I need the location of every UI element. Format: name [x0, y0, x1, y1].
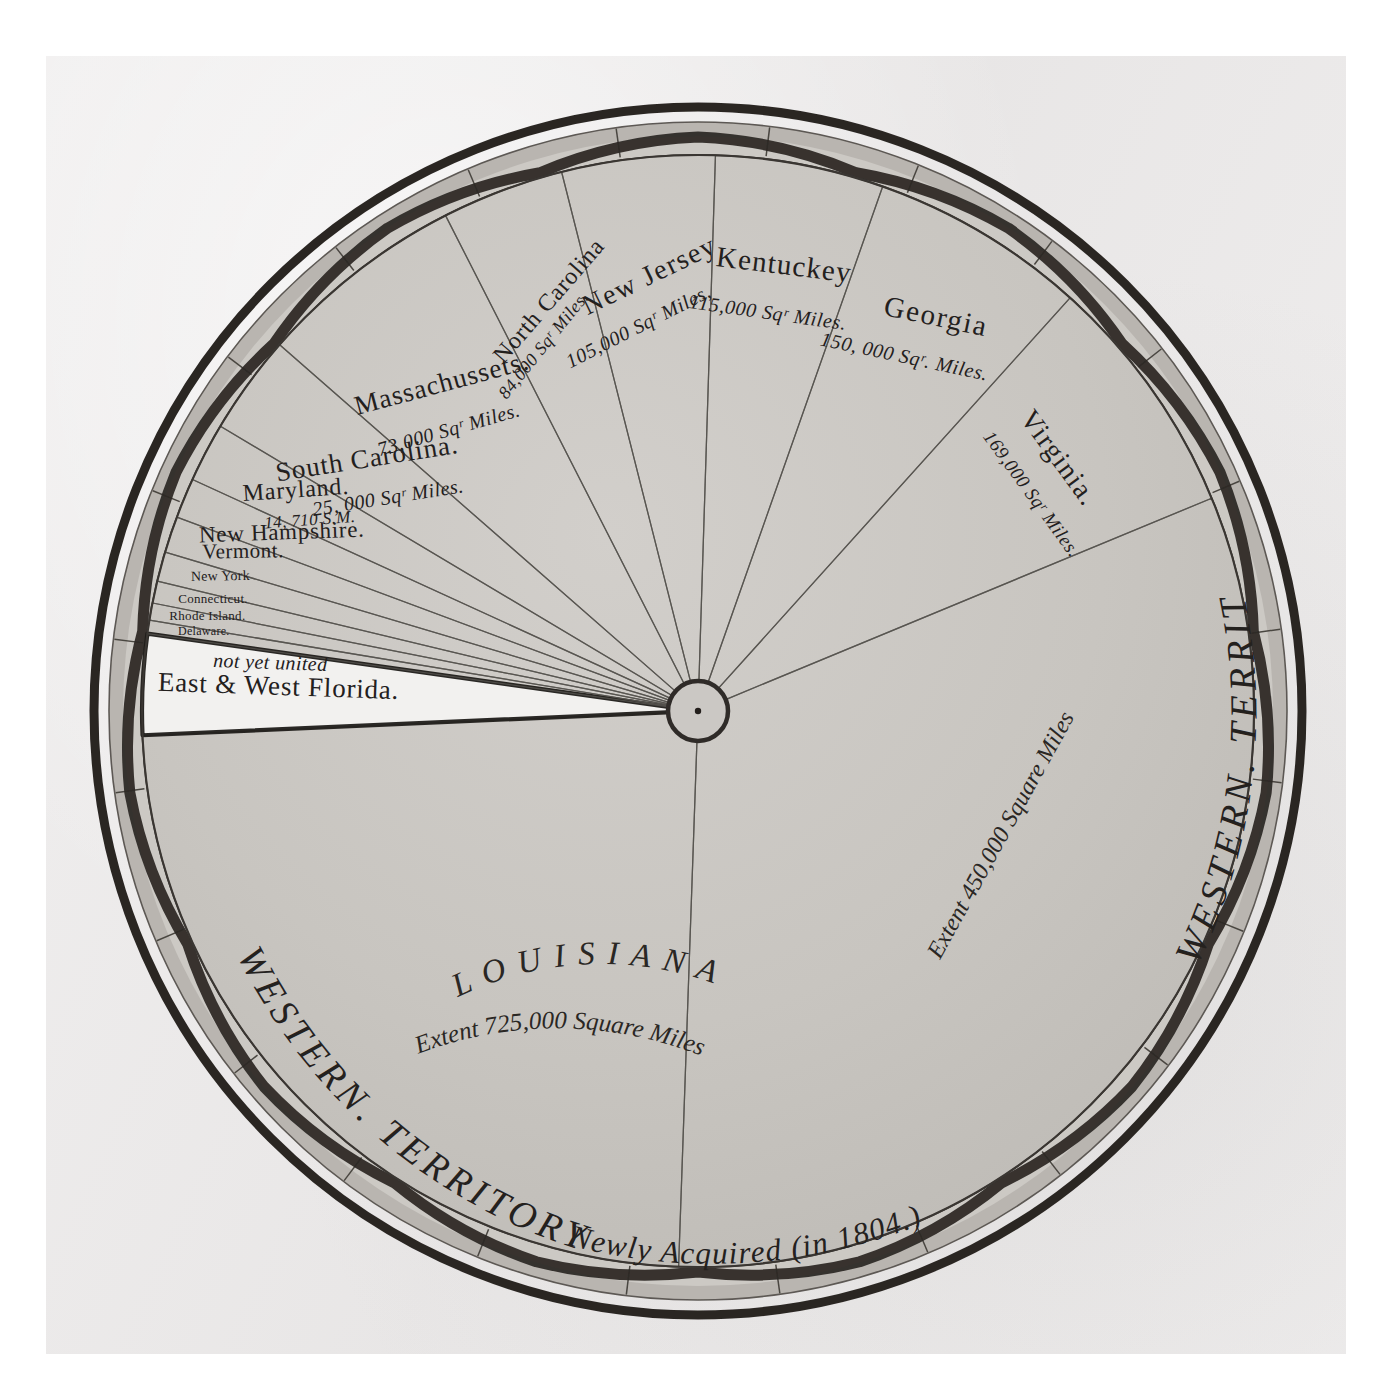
playfair-circle-chart: Kentuckey115,000 Sqʳ Miles.Georgia150, 0…	[0, 0, 1389, 1394]
vermont-name: Vermont.	[202, 538, 284, 563]
center-hub	[668, 681, 728, 741]
rhode-island-name: Rhode Island.	[169, 608, 245, 623]
new-york-name: New York	[191, 568, 250, 584]
screenshot-sheet: Kentuckey115,000 Sqʳ Miles.Georgia150, 0…	[0, 0, 1389, 1394]
connecticut-name: Connecticut.	[178, 591, 248, 606]
delaware-name: Delaware.	[178, 624, 230, 638]
